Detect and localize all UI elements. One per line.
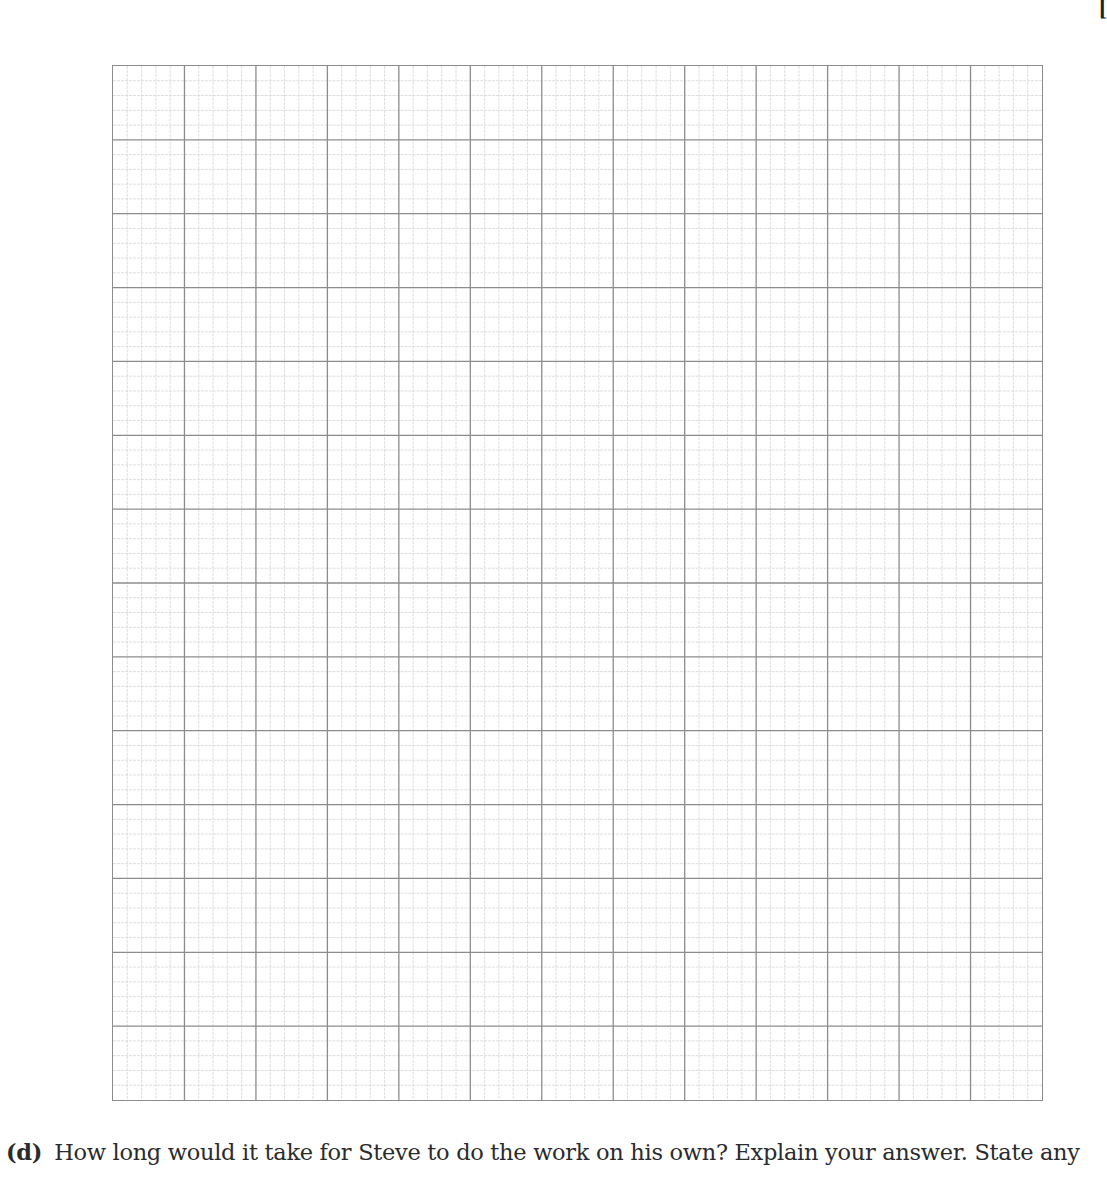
question-text: How long would it take for Steve to do t… <box>54 1139 1080 1165</box>
question-label: (d) <box>6 1139 42 1165</box>
grid-lines <box>113 66 1042 1100</box>
question-d: (d)How long would it take for Steve to d… <box>6 1137 1080 1167</box>
marks-bracket-fragment: [ <box>1099 0 1107 21</box>
graph-paper-grid <box>112 65 1043 1101</box>
